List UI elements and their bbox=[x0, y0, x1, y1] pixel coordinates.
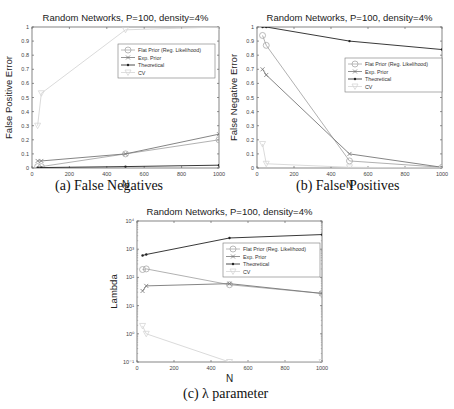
legend-entry: Flat Prior (Reg. Likelihood) bbox=[138, 47, 201, 53]
x-tick-label: 0 bbox=[255, 171, 258, 177]
chart-title: Random Networks, P=100, density=4% bbox=[267, 12, 433, 23]
x-tick-label: 600 bbox=[140, 171, 149, 177]
legend-entry: CV bbox=[365, 84, 373, 90]
chart-false-negative-error: Random Networks, P=100, density=4%020040… bbox=[227, 0, 454, 200]
y-tick-label: 0 bbox=[26, 165, 29, 171]
series-cv bbox=[260, 142, 445, 171]
legend-entry: Flat Prior (Reg. Likelihood) bbox=[365, 61, 428, 67]
chart-title: Random Networks, P=100, density=4% bbox=[147, 206, 313, 217]
legend: Flat Prior (Reg. Likelihood)Exp. PriorTh… bbox=[345, 58, 442, 92]
series-flat-prior-reg-likelihood bbox=[260, 32, 445, 170]
y-axis-label: False Positive Error bbox=[3, 56, 14, 139]
x-tick-label: 1000 bbox=[213, 171, 225, 177]
y-tick-label: 0.2 bbox=[21, 137, 29, 143]
y-tick-label: 0.3 bbox=[21, 123, 29, 129]
legend-entry: Flat Prior (Reg. Likelihood) bbox=[243, 246, 306, 252]
y-tick-label: 0.1 bbox=[21, 151, 29, 157]
x-tick-label: 400 bbox=[206, 365, 215, 371]
y-tick-label: 10⁴ bbox=[126, 218, 135, 224]
y-tick-label: 1 bbox=[26, 24, 29, 30]
legend-entry: Exp. Prior bbox=[243, 254, 266, 260]
x-tick-label: 200 bbox=[65, 171, 74, 177]
y-tick-label: 0.6 bbox=[21, 80, 29, 86]
caption-b: (b) False Positives bbox=[296, 178, 399, 194]
y-tick-label: 10⁰ bbox=[126, 331, 135, 337]
chart-title: Random Networks, P=100, density=4% bbox=[43, 12, 209, 23]
chart-a-plot: Random Networks, P=100, density=4%020040… bbox=[0, 0, 227, 200]
y-tick-label: 10¹ bbox=[126, 303, 134, 309]
y-tick-label: 0.1 bbox=[246, 151, 254, 157]
y-tick-label: 0.8 bbox=[246, 52, 254, 58]
y-axis-label: Lambda bbox=[108, 274, 119, 309]
legend-entry: Theoretical bbox=[138, 62, 164, 68]
y-tick-label: 0.7 bbox=[246, 66, 254, 72]
series-cv bbox=[140, 323, 325, 365]
y-tick-label: 10⁻¹ bbox=[123, 359, 134, 365]
y-tick-label: 10³ bbox=[126, 246, 134, 252]
x-tick-label: 600 bbox=[363, 171, 372, 177]
x-tick-label: 0 bbox=[30, 171, 33, 177]
x-tick-label: 1000 bbox=[436, 171, 448, 177]
y-axis-label: False Negative Error bbox=[228, 54, 239, 141]
legend-entry: Theoretical bbox=[365, 76, 391, 82]
legend: Flat Prior (Reg. Likelihood)Exp. PriorTh… bbox=[223, 243, 320, 277]
caption-c: (c) λ parameter bbox=[183, 386, 268, 402]
x-tick-label: 400 bbox=[102, 171, 111, 177]
x-tick-label: 200 bbox=[289, 171, 298, 177]
legend-entry: CV bbox=[243, 269, 251, 275]
x-tick-label: 200 bbox=[169, 365, 178, 371]
caption-a: (a) False Negatives bbox=[55, 178, 163, 194]
y-tick-label: 0.7 bbox=[21, 66, 29, 72]
y-tick-label: 0.9 bbox=[21, 38, 29, 44]
x-tick-label: 800 bbox=[177, 171, 186, 177]
y-tick-label: 0.4 bbox=[246, 109, 254, 115]
y-tick-label: 0.4 bbox=[21, 109, 29, 115]
y-tick-label: 0.3 bbox=[246, 123, 254, 129]
chart-c-plot: Random Networks, P=100, density=4%020040… bbox=[105, 196, 345, 386]
plot-area bbox=[137, 221, 322, 362]
legend-entry: Exp. Prior bbox=[138, 55, 161, 61]
legend-entry: CV bbox=[138, 70, 146, 76]
x-tick-label: 0 bbox=[135, 365, 138, 371]
y-tick-label: 0.9 bbox=[246, 38, 254, 44]
legend: Flat Prior (Reg. Likelihood)Exp. PriorTh… bbox=[118, 44, 215, 78]
y-tick-label: 0 bbox=[251, 165, 254, 171]
legend-entry: Theoretical bbox=[243, 261, 269, 267]
series-exp-prior bbox=[141, 282, 324, 296]
legend-entry: Exp. Prior bbox=[365, 69, 388, 75]
x-tick-label: 600 bbox=[243, 365, 252, 371]
y-tick-label: 0.6 bbox=[246, 80, 254, 86]
chart-false-positive-error: Random Networks, P=100, density=4%020040… bbox=[0, 0, 227, 200]
x-tick-label: 1000 bbox=[316, 365, 328, 371]
y-tick-label: 0.5 bbox=[246, 95, 254, 101]
series-exp-prior bbox=[36, 132, 221, 163]
series-theoretical bbox=[261, 26, 443, 51]
x-axis-label: N bbox=[226, 373, 233, 384]
chart-b-plot: Random Networks, P=100, density=4%020040… bbox=[227, 0, 454, 200]
y-tick-label: 10² bbox=[126, 274, 134, 280]
chart-lambda: Random Networks, P=100, density=4%020040… bbox=[105, 196, 345, 386]
plot-area bbox=[257, 27, 442, 168]
y-tick-label: 1 bbox=[251, 24, 254, 30]
x-tick-label: 800 bbox=[400, 171, 409, 177]
x-tick-label: 800 bbox=[280, 365, 289, 371]
y-tick-label: 0.2 bbox=[246, 137, 254, 143]
y-tick-label: 0.8 bbox=[21, 52, 29, 58]
y-tick-label: 0.5 bbox=[21, 95, 29, 101]
x-tick-label: 400 bbox=[326, 171, 335, 177]
